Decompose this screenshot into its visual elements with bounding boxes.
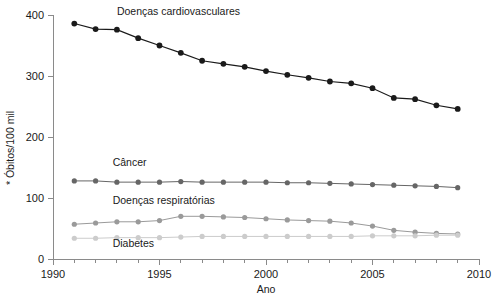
data-point <box>263 216 268 221</box>
data-point <box>157 180 162 185</box>
y-tick-label: 0 <box>38 253 44 265</box>
series-1 <box>71 21 460 112</box>
data-point <box>391 228 396 233</box>
data-point <box>221 234 226 239</box>
series-label-3: Doenças respiratórias <box>113 194 215 206</box>
data-point <box>327 181 332 186</box>
data-point <box>135 35 141 41</box>
data-point <box>200 234 205 239</box>
data-point <box>391 233 396 238</box>
y-axis: 0100200300400 <box>26 9 53 265</box>
data-point <box>391 183 396 188</box>
series-2 <box>72 178 461 190</box>
chart-container: 0100200300400 19901995200020052010 Doenç… <box>0 0 499 303</box>
data-point <box>327 234 332 239</box>
data-point <box>93 220 98 225</box>
data-series-group <box>71 21 460 241</box>
series-3 <box>72 214 461 237</box>
x-tick-label: 2000 <box>254 268 278 280</box>
data-point <box>348 80 354 86</box>
x-axis-title: Ano <box>257 283 276 295</box>
data-point <box>71 21 77 27</box>
data-point <box>136 219 141 224</box>
data-point <box>200 214 205 219</box>
data-point <box>178 179 183 184</box>
data-point <box>370 223 375 228</box>
data-point <box>199 58 205 64</box>
x-tick-label: 2010 <box>467 268 491 280</box>
data-point <box>434 233 439 238</box>
data-point <box>285 217 290 222</box>
data-point <box>327 79 333 85</box>
data-point <box>370 233 375 238</box>
x-axis: 19901995200020052010 <box>41 259 491 280</box>
data-point <box>157 235 162 240</box>
data-point <box>157 43 163 49</box>
data-point <box>349 181 354 186</box>
x-tick-label: 1990 <box>41 268 65 280</box>
data-point <box>221 61 227 67</box>
data-point <box>221 180 226 185</box>
y-tick-label: 300 <box>26 70 44 82</box>
data-point <box>263 180 268 185</box>
x-tick-label: 1995 <box>147 268 171 280</box>
data-point <box>114 219 119 224</box>
data-point <box>413 233 418 238</box>
data-point <box>391 95 397 101</box>
data-point <box>114 27 120 33</box>
x-tick-label: 2005 <box>360 268 384 280</box>
data-point <box>72 222 77 227</box>
data-point <box>263 234 268 239</box>
data-point <box>200 180 205 185</box>
y-tick-label: 400 <box>26 9 44 21</box>
data-point <box>157 218 162 223</box>
series-label-1: Doenças cardiovasculares <box>117 5 240 17</box>
data-point <box>136 180 141 185</box>
data-point <box>93 236 98 241</box>
data-point <box>242 215 247 220</box>
data-point <box>455 185 460 190</box>
data-point <box>370 182 375 187</box>
data-point <box>178 214 183 219</box>
data-point <box>114 180 119 185</box>
y-axis-title: * Óbitos/100 mil <box>4 111 16 185</box>
data-point <box>242 234 247 239</box>
data-point <box>285 180 290 185</box>
series-label-4: Diabetes <box>113 237 154 249</box>
data-point <box>306 234 311 239</box>
data-point <box>413 183 418 188</box>
data-point <box>455 106 461 112</box>
data-point <box>455 233 460 238</box>
data-point <box>93 178 98 183</box>
y-tick-label: 200 <box>26 131 44 143</box>
data-point <box>306 180 311 185</box>
data-point <box>221 214 226 219</box>
data-point <box>242 64 248 70</box>
data-point <box>349 220 354 225</box>
data-point <box>72 236 77 241</box>
data-point <box>284 72 290 78</box>
data-point <box>306 218 311 223</box>
data-point <box>327 219 332 224</box>
data-point <box>178 234 183 239</box>
data-point <box>412 96 418 102</box>
data-point <box>285 234 290 239</box>
data-point <box>93 26 99 32</box>
y-tick-label: 100 <box>26 192 44 204</box>
data-point <box>434 102 440 108</box>
mortality-rate-line-chart: 0100200300400 19901995200020052010 Doenç… <box>0 0 499 303</box>
data-point <box>178 50 184 56</box>
series-labels-group: Doenças cardiovascularesCâncerDoenças re… <box>113 5 240 249</box>
data-point <box>263 68 269 74</box>
data-point <box>242 180 247 185</box>
data-point <box>349 234 354 239</box>
data-point <box>72 178 77 183</box>
data-point <box>434 184 439 189</box>
data-point <box>370 85 376 91</box>
data-point <box>306 75 312 81</box>
series-label-2: Câncer <box>113 156 147 168</box>
